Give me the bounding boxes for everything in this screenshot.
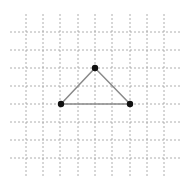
dotted-grid — [10, 14, 180, 176]
grid-diagram — [0, 0, 191, 187]
vertex-point-right — [127, 101, 133, 107]
vertex-point-left — [58, 101, 64, 107]
vertex-point-top — [92, 65, 98, 71]
